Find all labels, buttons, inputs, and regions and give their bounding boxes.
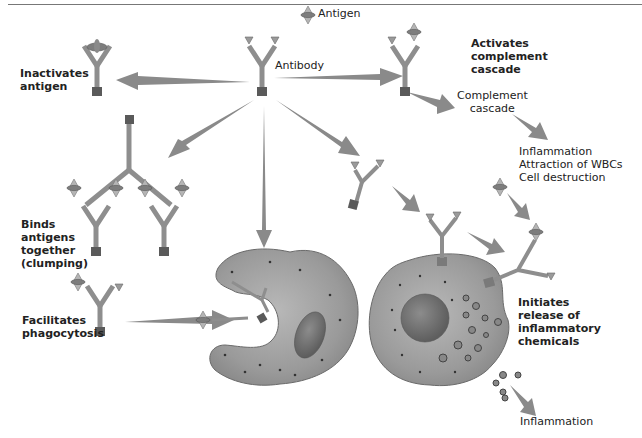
antibody-label: Antibody [275,59,324,72]
inactivates-antigen-label: Inactivatesantigen [20,67,89,93]
arrow-to-complement [407,92,455,114]
arrow-to-right-antibody [276,100,360,156]
antibody-complement [388,23,421,96]
arrow-to-mast-cell [392,186,420,212]
antigen-label: Antigen [318,7,361,20]
antigen-legend-icon [301,6,315,24]
arrow-antigen-to-bound [507,193,530,220]
complement-cascade-label: Complementcascade [457,89,528,115]
antibody-right [348,160,384,210]
inflammation-bottom-label: Inflammation [520,415,593,428]
arrow-to-mast-antibody [467,232,505,255]
arrow-to-inactivates [116,72,250,90]
facilitates-phagocytosis-label: Facilitatesphagocytosis [22,314,104,340]
arrow-to-clumping [168,100,254,158]
antibody-main [245,37,279,96]
initiates-release-label: Initiatesrelease ofinflammatorychemicals [518,296,601,348]
arrow-to-phagocyte [256,106,272,248]
activates-complement-label: Activatescomplementcascade [471,37,548,76]
arrow-to-inflammation [510,385,536,416]
complement-effects-label: InflammationAttraction of WBCsCell destr… [519,145,623,184]
binds-antigens-label: Bindsantigenstogether(clumping) [21,218,88,270]
arrow-complement-to-effects [512,114,548,140]
free-antigen-icon [493,178,507,196]
